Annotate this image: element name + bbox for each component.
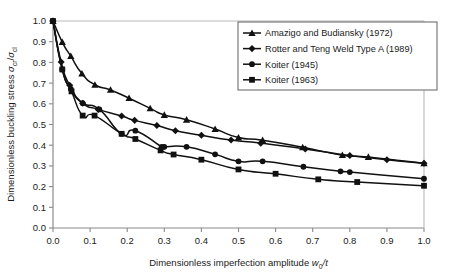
x-tick-label: 0.1 (83, 235, 96, 246)
data-point-marker (50, 18, 56, 24)
y-tick-label: 0.0 (33, 222, 46, 233)
x-tick-label: 0.8 (343, 235, 356, 246)
x-axis-title: Dimensionless imperfection amplitude w0/… (149, 257, 328, 270)
data-point-marker (354, 179, 360, 185)
data-point-marker (80, 113, 86, 119)
data-point-marker (132, 128, 138, 134)
chart-legend[interactable]: Amazigo and Budiansky (1972)Rotter and T… (238, 22, 437, 90)
imperfection-sensitivity-chart: 0.00.10.20.30.40.50.60.70.80.91.0 0.00.1… (0, 0, 455, 276)
legend-marker-circle (249, 61, 255, 67)
y-tick-label: 0.6 (33, 98, 46, 109)
data-point-marker (92, 113, 98, 119)
legend-item-label: Koiter (1963) (265, 75, 318, 85)
x-tick-label: 0.7 (306, 235, 319, 246)
data-point-marker (59, 67, 65, 73)
data-point-marker (158, 147, 164, 153)
y-tick-label: 0.8 (33, 57, 46, 68)
x-tick-label: 0.4 (195, 235, 208, 246)
data-point-marker (69, 88, 75, 94)
data-point-marker (236, 158, 242, 164)
data-point-marker (315, 176, 321, 182)
x-tick-label: 1.0 (417, 235, 430, 246)
y-axis-title: Dimensionless buckling stress σcr/σcl (5, 47, 18, 202)
data-point-marker (301, 164, 307, 170)
y-tick-label: 0.7 (33, 78, 46, 89)
data-point-marker (171, 152, 177, 158)
data-point-marker (96, 106, 102, 112)
y-axis-label: Dimensionless buckling stress σcr/σcl (5, 47, 18, 202)
legend-marker-square (249, 77, 255, 83)
y-tick-label: 0.4 (33, 140, 46, 151)
legend-item-label: Koiter (1945) (265, 60, 318, 70)
legend-item-label: Amazigo and Budiansky (1972) (265, 28, 393, 38)
x-tick-label: 0.9 (380, 235, 393, 246)
data-point-marker (212, 151, 218, 157)
data-point-marker (347, 169, 353, 175)
legend-item-label: Rotter and Teng Weld Type A (1989) (265, 44, 413, 54)
data-point-marker (80, 100, 86, 106)
data-point-marker (184, 144, 190, 150)
data-point-marker (199, 157, 205, 163)
data-point-marker (119, 131, 125, 137)
x-tick-label: 0.2 (121, 235, 134, 246)
data-point-marker (421, 176, 427, 182)
data-point-marker (273, 171, 279, 177)
y-tick-label: 0.3 (33, 160, 46, 171)
legend-item-2[interactable]: Rotter and Teng Weld Type A (1989) (243, 44, 413, 54)
x-tick-label: 0.5 (232, 235, 245, 246)
data-point-marker (421, 183, 427, 189)
y-tick-label: 0.1 (33, 202, 46, 213)
x-axis-label: Dimensionless imperfection amplitude w0/… (149, 257, 328, 270)
data-point-marker (236, 167, 242, 173)
y-tick-label: 1.0 (33, 15, 46, 26)
legend-item-1[interactable]: Amazigo and Budiansky (1972) (243, 28, 393, 38)
y-tick-label: 0.5 (33, 119, 46, 130)
y-tick-label: 0.2 (33, 181, 46, 192)
data-point-marker (132, 136, 138, 142)
data-point-marker (338, 168, 344, 174)
x-tick-label: 0.0 (46, 235, 59, 246)
x-tick-label: 0.3 (158, 235, 171, 246)
data-point-marker (260, 158, 266, 164)
chart-container: 0.00.10.20.30.40.50.60.70.80.91.0 0.00.1… (0, 0, 455, 276)
y-tick-label: 0.9 (33, 36, 46, 47)
x-tick-label: 0.6 (269, 235, 282, 246)
